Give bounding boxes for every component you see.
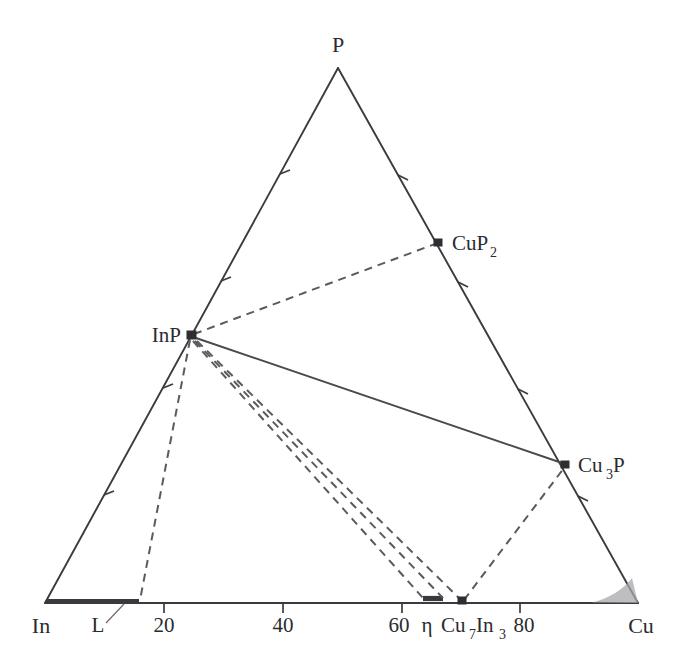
tie-inp-eta-left (193, 341, 423, 598)
point-cu7in3 (458, 597, 466, 604)
phase-label-eta: η (422, 613, 433, 637)
phase-label-cu7in3-in: In (476, 613, 494, 637)
tie-inp-cup2 (194, 244, 435, 334)
edge-p-cu (338, 68, 638, 603)
phase-label-liquid: L (92, 613, 105, 637)
tick-label-40: 40 (273, 613, 294, 637)
triangle-edges (45, 68, 638, 603)
tie-lines (140, 244, 564, 600)
phase-label-cup2-sub: 2 (490, 245, 497, 260)
phase-diagram-canvas: P In Cu 20 40 60 80 L InP CuP 2 Cu 3 P η… (0, 0, 673, 665)
phase-label-inp: InP (152, 323, 181, 347)
bottom-axis-ticks (164, 603, 520, 613)
tick-label-20: 20 (154, 613, 175, 637)
phase-label-cu7in3-sub1: 7 (469, 627, 476, 642)
tick-label-60: 60 (389, 613, 410, 637)
cu-solid-solution-region (592, 578, 638, 603)
phase-label-cu7in3: Cu 7 In 3 (441, 613, 506, 642)
phase-label-cu3p-main: Cu (578, 453, 603, 477)
phase-label-cu3p-sub: 3 (606, 467, 613, 482)
tick-label-80: 80 (514, 613, 535, 637)
phase-label-cup2: CuP 2 (452, 231, 497, 260)
point-inp (187, 331, 196, 339)
point-cu3p (561, 461, 569, 468)
phase-points (187, 239, 569, 604)
phase-label-cu7in3-cu: Cu (441, 613, 466, 637)
vertex-label-cu: Cu (628, 613, 654, 638)
tie-inp-cu7in3 (197, 341, 461, 600)
phase-label-cup2-main: CuP (452, 231, 488, 255)
point-cup2 (434, 239, 442, 246)
liquid-leader-line (106, 604, 124, 623)
tie-cu7in3-cu3p (464, 468, 564, 600)
tie-inp-liquid (140, 340, 190, 600)
phase-label-cu7in3-sub2: 3 (499, 627, 506, 642)
ternary-phase-diagram: P In Cu 20 40 60 80 L InP CuP 2 Cu 3 P η… (0, 0, 673, 665)
vertex-label-in: In (32, 613, 50, 638)
phase-label-cu3p: Cu 3 P (578, 453, 625, 482)
vertex-label-p: P (332, 32, 344, 57)
phase-label-cu3p-tail: P (613, 453, 625, 477)
tie-inp-cu3p (196, 338, 562, 463)
